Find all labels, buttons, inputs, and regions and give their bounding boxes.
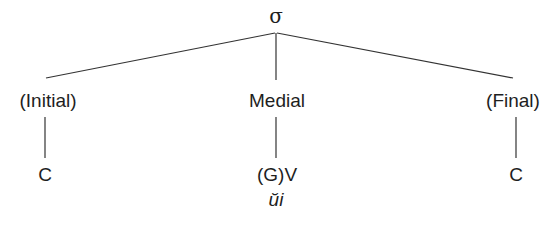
- node-initial: (Initial): [19, 91, 76, 110]
- node-final: (Final): [486, 91, 540, 110]
- leaf-initial-c: C: [38, 165, 52, 184]
- edge-root-initial: [46, 33, 275, 78]
- example-medial: ŭi: [269, 190, 284, 209]
- leaf-medial-gv: (G)V: [257, 165, 297, 184]
- edge-root-final: [277, 33, 513, 78]
- node-medial: Medial: [249, 91, 305, 110]
- root-sigma: σ: [269, 6, 283, 26]
- leaf-final-c: C: [509, 165, 523, 184]
